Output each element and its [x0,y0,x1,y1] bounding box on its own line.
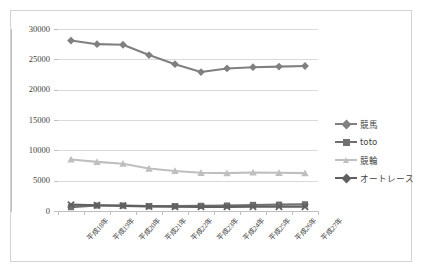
legend-item-4[interactable]: オートレース [335,169,419,187]
legend-swatch-icon [335,155,357,165]
legend-item-label: 競輪 [360,154,378,166]
legend-item-label: 競馬 [360,118,378,130]
data-point [249,63,257,71]
legend-item-3[interactable]: 競輪 [335,151,419,169]
series-line [71,41,305,73]
data-point [171,60,179,68]
data-point [223,65,231,73]
series-3 [67,156,308,176]
data-point [197,68,205,76]
legend-marker-icon [343,139,350,146]
legend-swatch-icon [335,173,357,183]
series-line [71,159,305,173]
legend-item-2[interactable]: toto [335,133,419,151]
legend-item-label: オートレース [360,172,414,184]
data-point [67,37,75,45]
data-point [119,41,127,49]
legend-swatch-icon [335,119,357,129]
series-1 [67,37,309,76]
legend-marker-icon [342,119,352,129]
data-point [145,51,153,59]
chart-legend: 競馬toto競輪オートレース [335,115,419,187]
data-point [301,62,309,70]
legend-marker-icon [342,173,352,183]
legend-item-label: toto [360,137,377,147]
legend-marker-icon [343,157,349,163]
legend-item-1[interactable]: 競馬 [335,115,419,133]
data-point [275,63,283,71]
chart-frame: 050001000015000200002500030000 平成18年平成19… [10,10,412,262]
data-point [93,40,101,48]
legend-swatch-icon [335,137,357,147]
